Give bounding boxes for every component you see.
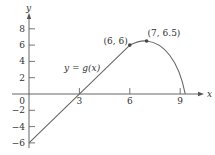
labels: xy8642−2−4−60369(6, 6)(7, 6.5)y = g(x) [12,3,212,148]
y-axis-arrow-icon [27,13,31,19]
y-tick-label: 2 [19,73,25,83]
graph-line [29,41,185,143]
function-graph: xy8642−2−4−60369(6, 6)(7, 6.5)y = g(x) [0,0,215,155]
x-axis-arrow-icon [198,92,204,96]
curve-g [29,41,185,143]
data-point [128,43,132,47]
y-tick-label: 6 [19,40,25,50]
y-tick-label: 4 [19,56,25,66]
y-tick-label: −4 [12,122,26,132]
marked-points [128,39,148,47]
point-label-7-6-5: (7, 6.5) [148,28,181,38]
point-label-6-6: (6, 6) [104,36,128,46]
x-tick-label: 9 [177,96,183,106]
y-tick-label: −6 [12,138,26,148]
function-label: y = g(x) [63,63,101,73]
y-tick-label: −2 [12,105,25,115]
origin-label: 0 [19,96,25,106]
x-tick-label: 3 [77,96,83,106]
x-tick-label: 6 [127,96,133,106]
y-axis-label: y [25,3,32,13]
y-tick-label: 8 [19,24,25,34]
data-point [145,39,149,43]
x-axis-label: x [207,89,212,99]
